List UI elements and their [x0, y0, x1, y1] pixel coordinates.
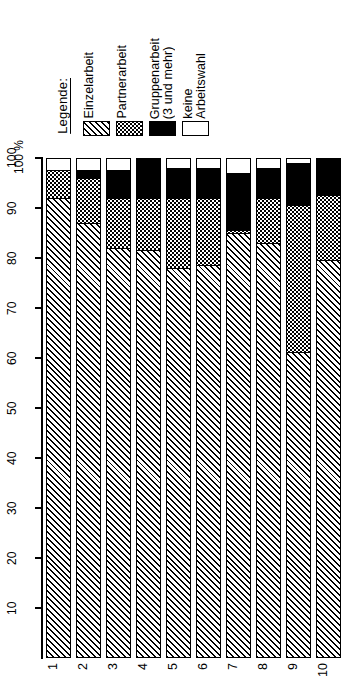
bar-segment-hatch — [77, 224, 100, 657]
category-label-2: 2 — [76, 663, 101, 670]
bar-segment-hatch — [47, 199, 70, 657]
category-label-6: 6 — [196, 663, 221, 670]
bar-segment-white — [227, 159, 250, 174]
bar-segment-white — [77, 159, 100, 171]
bar-segment-dots — [197, 199, 220, 266]
bar-segment-black — [317, 159, 340, 196]
bar-segment-dots — [77, 179, 100, 224]
bar-category-8 — [256, 158, 281, 658]
bar-segment-hatch — [227, 234, 250, 657]
axis-tick-label: 90 — [5, 192, 31, 224]
bar-segment-hatch — [107, 249, 130, 657]
bar-segment-hatch — [317, 261, 340, 657]
category-label-1: 1 — [46, 663, 71, 670]
bar-category-9 — [286, 158, 311, 658]
category-label-10: 10 — [316, 663, 341, 677]
bar-category-2 — [76, 158, 101, 658]
bar-segment-dots — [287, 206, 310, 353]
bar-segment-black — [227, 174, 250, 231]
bar-category-5 — [166, 158, 191, 658]
bar-category-10 — [316, 158, 341, 658]
axis-tick-label: 60 — [5, 342, 31, 374]
bar-segment-dots — [167, 199, 190, 269]
category-label-4: 4 — [136, 663, 161, 670]
bar-segment-black — [137, 159, 160, 199]
bar-segment-white — [257, 159, 280, 169]
axis-tick-label: 20 — [5, 542, 31, 574]
category-label-9: 9 — [286, 663, 311, 670]
bar-segment-hatch — [197, 266, 220, 657]
axis-tick-label: 10 — [5, 592, 31, 624]
bar-segment-black — [167, 169, 190, 199]
axis-tick — [35, 457, 42, 459]
axis-tick-label: 50 — [5, 392, 31, 424]
axis-tick-label: 80 — [5, 242, 31, 274]
axis-tick — [35, 557, 42, 559]
bar-segment-dots — [137, 199, 160, 251]
axis-tick-label: 100 — [5, 142, 31, 174]
category-label-3: 3 — [106, 663, 131, 670]
category-label-5: 5 — [166, 663, 191, 670]
axis-tick-label: 40 — [5, 442, 31, 474]
bar-segment-hatch — [257, 244, 280, 657]
axis-tick — [35, 157, 42, 159]
bar-segment-white — [47, 159, 70, 171]
bar-segment-hatch — [287, 353, 310, 657]
bar-category-7 — [226, 158, 251, 658]
bar-segment-hatch — [137, 251, 160, 657]
category-label-8: 8 — [256, 663, 281, 670]
axis-tick — [35, 607, 42, 609]
bar-segment-black — [197, 169, 220, 199]
category-label-7: 7 — [226, 663, 251, 670]
bar-segment-hatch — [167, 269, 190, 657]
bar-segment-white — [107, 159, 130, 171]
axis-tick — [35, 407, 42, 409]
axis-tick — [35, 307, 42, 309]
bar-category-1 — [46, 158, 71, 658]
bar-segment-white — [197, 159, 220, 169]
bar-category-3 — [106, 158, 131, 658]
bar-segment-dots — [47, 171, 70, 198]
bar-segment-dots — [257, 199, 280, 244]
bar-segment-white — [167, 159, 190, 169]
bar-category-6 — [196, 158, 221, 658]
axis-tick — [35, 207, 42, 209]
bar-segment-dots — [317, 196, 340, 261]
axis-tick-label: 30 — [5, 492, 31, 524]
bar-segment-dots — [107, 199, 130, 249]
axis-tick — [35, 357, 42, 359]
axis-tick — [35, 507, 42, 509]
axis-tick — [35, 257, 42, 259]
axis-tick-label: 70 — [5, 292, 31, 324]
bar-segment-black — [287, 164, 310, 206]
bar-segment-black — [257, 169, 280, 199]
bar-category-4 — [136, 158, 161, 658]
stacked-bar-chart: 100 % 100908070605040302010 12345678910 — [0, 0, 364, 685]
bar-segment-black — [107, 171, 130, 198]
bar-segment-black — [77, 171, 100, 178]
